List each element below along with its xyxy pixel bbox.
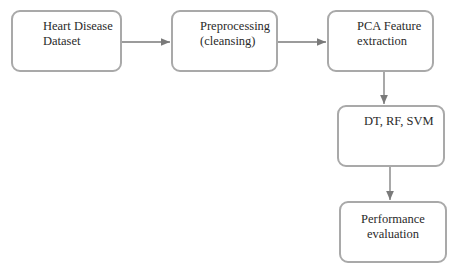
node-preprocessing: Preprocessing (cleansing) — [171, 10, 278, 72]
node-performance-evaluation: Performance evaluation — [339, 201, 447, 263]
node-pca-feature-extraction: PCA Feature extraction — [327, 10, 434, 72]
node-heart-disease-dataset: Heart Disease Dataset — [11, 10, 122, 72]
node-label: PCA Feature extraction — [357, 19, 421, 49]
node-label: Performance evaluation — [341, 212, 445, 242]
node-label: Heart Disease Dataset — [43, 19, 113, 49]
node-classifiers: DT, RF, SVM — [337, 105, 445, 167]
node-label: DT, RF, SVM — [364, 114, 434, 129]
node-label: Preprocessing (cleansing) — [200, 19, 270, 49]
